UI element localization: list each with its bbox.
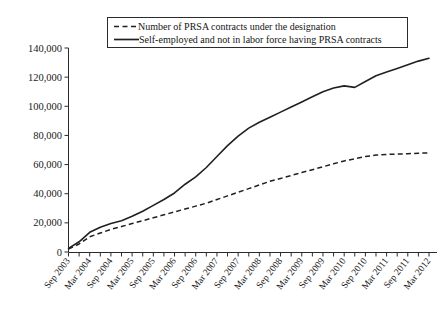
y-axis-tick-marks: [65, 48, 69, 252]
chart-legend: Number of PRSA contracts under the desig…: [108, 18, 408, 48]
y-axis-tick-label: 80,000: [33, 130, 62, 141]
y-axis-tick-label: 60,000: [33, 159, 62, 170]
x-axis-tick-labels: Sep 2003Mar 2004Sep 2004Mar 2005Sep 2005…: [42, 256, 432, 292]
line-chart: 020,00040,00060,00080,000100,000120,0001…: [0, 0, 443, 319]
legend-label-contracts: Number of PRSA contracts under the desig…: [138, 21, 336, 32]
y-axis-tick-label: 0: [57, 247, 62, 258]
series-line-prsa-contracts: [69, 153, 430, 249]
chart-page: 020,00040,00060,00080,000100,000120,0001…: [0, 0, 443, 319]
y-axis-tick-label: 120,000: [28, 72, 62, 83]
y-axis-tick-labels: 020,00040,00060,00080,000100,000120,0001…: [28, 43, 62, 258]
x-axis-tick-marks: [69, 253, 430, 257]
y-axis-tick-label: 20,000: [33, 217, 62, 228]
y-axis-tick-label: 100,000: [28, 101, 62, 112]
y-axis-tick-label: 140,000: [28, 43, 62, 54]
series-line-self-employed: [69, 58, 430, 248]
y-axis-tick-label: 40,000: [33, 188, 62, 199]
legend-label-self-employed: Self-employed and not in labor force hav…: [139, 34, 382, 45]
